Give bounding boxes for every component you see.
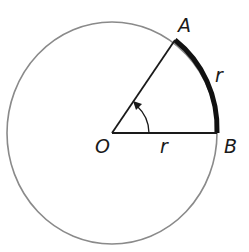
- radius-oa: [112, 40, 175, 133]
- label-arc-r: r: [215, 64, 224, 86]
- label-b: B: [224, 135, 237, 157]
- angle-arrowhead-icon: [133, 101, 142, 110]
- label-a: A: [176, 14, 191, 36]
- highlighted-arc-ab: [175, 40, 217, 133]
- radian-diagram: A r O r B: [0, 0, 249, 252]
- label-o: O: [95, 135, 110, 157]
- label-radius-r: r: [160, 135, 169, 157]
- angle-arrow-arc: [137, 106, 149, 133]
